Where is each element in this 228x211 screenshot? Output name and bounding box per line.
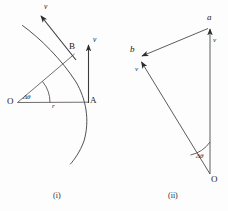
label-origin-o-panel-ii: O [211, 175, 218, 184]
panel-i-graphics [18, 16, 89, 164]
label-angle-delta-theta-panel-i: Δθ [23, 94, 31, 101]
label-velocity-at-b: v [44, 3, 47, 11]
label-point-b: B [69, 42, 75, 51]
circular-arc-path [23, 26, 87, 165]
caption-panel-ii: (ii) [168, 192, 178, 200]
caption-panel-i: (i) [53, 192, 61, 200]
label-radius-r: r [52, 103, 55, 110]
physics-diagram-svg [0, 0, 228, 211]
label-angle-delta-theta-panel-ii: Δθ [196, 153, 204, 160]
label-center-o-panel-i: O [7, 97, 14, 106]
label-velocity-at-a: v [93, 36, 96, 44]
label-vertex-a: a [207, 13, 212, 22]
velocity-vector-at-b [41, 16, 76, 60]
figure-page: O A B r Δθ v v (i) a b O v v Δθ (ii) [0, 0, 228, 211]
angle-arc-delta-theta-i [43, 82, 51, 103]
label-velocity-right: v [213, 37, 216, 44]
label-velocity-left: v [135, 66, 138, 73]
label-point-a: A [90, 96, 97, 105]
vector-a-to-b [142, 29, 208, 57]
label-vertex-b: b [130, 45, 135, 54]
